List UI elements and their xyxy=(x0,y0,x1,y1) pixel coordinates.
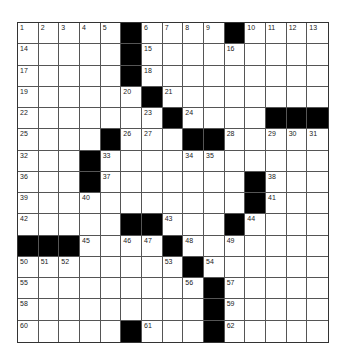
grid-cell[interactable] xyxy=(307,299,328,320)
grid-cell[interactable] xyxy=(245,236,266,257)
grid-cell[interactable] xyxy=(39,87,60,108)
grid-cell[interactable] xyxy=(80,257,101,278)
grid-cell[interactable] xyxy=(101,236,122,257)
grid-cell[interactable]: 45 xyxy=(80,236,101,257)
grid-cell[interactable] xyxy=(39,129,60,150)
grid-cell[interactable] xyxy=(266,299,287,320)
grid-cell[interactable]: 8 xyxy=(183,23,204,44)
grid-cell[interactable]: 19 xyxy=(18,87,39,108)
grid-cell[interactable] xyxy=(121,193,142,214)
grid-cell[interactable] xyxy=(266,66,287,87)
grid-cell[interactable] xyxy=(80,44,101,65)
grid-cell[interactable]: 46 xyxy=(121,236,142,257)
grid-cell[interactable] xyxy=(183,44,204,65)
grid-cell[interactable]: 10 xyxy=(245,23,266,44)
grid-cell[interactable]: 37 xyxy=(101,172,122,193)
grid-cell[interactable] xyxy=(163,193,184,214)
grid-cell[interactable] xyxy=(183,193,204,214)
grid-cell[interactable]: 11 xyxy=(266,23,287,44)
grid-cell[interactable]: 53 xyxy=(163,257,184,278)
grid-cell[interactable] xyxy=(39,214,60,235)
grid-cell[interactable] xyxy=(101,66,122,87)
grid-cell[interactable] xyxy=(287,214,308,235)
grid-cell[interactable]: 5 xyxy=(101,23,122,44)
grid-cell[interactable] xyxy=(245,44,266,65)
grid-cell[interactable] xyxy=(39,44,60,65)
grid-cell[interactable] xyxy=(287,193,308,214)
grid-cell[interactable] xyxy=(121,172,142,193)
grid-cell[interactable] xyxy=(225,87,246,108)
grid-cell[interactable] xyxy=(142,257,163,278)
grid-cell[interactable] xyxy=(204,236,225,257)
grid-cell[interactable]: 51 xyxy=(39,257,60,278)
grid-cell[interactable] xyxy=(287,66,308,87)
grid-cell[interactable] xyxy=(101,257,122,278)
grid-cell[interactable]: 25 xyxy=(18,129,39,150)
grid-cell[interactable] xyxy=(266,151,287,172)
grid-cell[interactable] xyxy=(287,236,308,257)
grid-cell[interactable]: 52 xyxy=(59,257,80,278)
grid-cell[interactable] xyxy=(307,151,328,172)
grid-cell[interactable] xyxy=(307,278,328,299)
grid-cell[interactable] xyxy=(245,87,266,108)
grid-cell[interactable] xyxy=(39,151,60,172)
grid-cell[interactable] xyxy=(121,151,142,172)
grid-cell[interactable] xyxy=(101,87,122,108)
grid-cell[interactable] xyxy=(101,108,122,129)
grid-cell[interactable] xyxy=(39,278,60,299)
grid-cell[interactable] xyxy=(101,299,122,320)
grid-cell[interactable]: 28 xyxy=(225,129,246,150)
grid-cell[interactable]: 13 xyxy=(307,23,328,44)
grid-cell[interactable] xyxy=(163,151,184,172)
grid-cell[interactable]: 41 xyxy=(266,193,287,214)
grid-cell[interactable]: 59 xyxy=(225,299,246,320)
grid-cell[interactable] xyxy=(142,172,163,193)
grid-cell[interactable] xyxy=(59,172,80,193)
grid-cell[interactable] xyxy=(307,257,328,278)
grid-cell[interactable]: 47 xyxy=(142,236,163,257)
grid-cell[interactable] xyxy=(142,193,163,214)
grid-cell[interactable]: 2 xyxy=(39,23,60,44)
grid-cell[interactable]: 54 xyxy=(204,257,225,278)
grid-cell[interactable] xyxy=(307,44,328,65)
grid-cell[interactable]: 30 xyxy=(287,129,308,150)
grid-cell[interactable]: 58 xyxy=(18,299,39,320)
grid-cell[interactable] xyxy=(266,321,287,342)
grid-cell[interactable] xyxy=(204,193,225,214)
grid-cell[interactable] xyxy=(266,257,287,278)
grid-cell[interactable] xyxy=(59,108,80,129)
grid-cell[interactable] xyxy=(80,87,101,108)
grid-cell[interactable] xyxy=(101,193,122,214)
grid-cell[interactable] xyxy=(204,87,225,108)
grid-cell[interactable]: 21 xyxy=(163,87,184,108)
grid-cell[interactable] xyxy=(101,44,122,65)
grid-cell[interactable] xyxy=(59,278,80,299)
grid-cell[interactable]: 56 xyxy=(183,278,204,299)
grid-cell[interactable]: 49 xyxy=(225,236,246,257)
grid-cell[interactable] xyxy=(163,129,184,150)
grid-cell[interactable] xyxy=(142,278,163,299)
grid-cell[interactable]: 18 xyxy=(142,66,163,87)
grid-cell[interactable]: 38 xyxy=(266,172,287,193)
grid-cell[interactable] xyxy=(59,321,80,342)
grid-cell[interactable] xyxy=(183,172,204,193)
grid-cell[interactable]: 4 xyxy=(80,23,101,44)
grid-cell[interactable] xyxy=(245,321,266,342)
grid-cell[interactable]: 24 xyxy=(183,108,204,129)
grid-cell[interactable] xyxy=(245,151,266,172)
grid-cell[interactable] xyxy=(307,193,328,214)
grid-cell[interactable] xyxy=(204,44,225,65)
grid-cell[interactable] xyxy=(80,278,101,299)
grid-cell[interactable]: 7 xyxy=(163,23,184,44)
grid-cell[interactable] xyxy=(39,299,60,320)
grid-cell[interactable]: 26 xyxy=(121,129,142,150)
grid-cell[interactable]: 55 xyxy=(18,278,39,299)
grid-cell[interactable] xyxy=(121,299,142,320)
grid-cell[interactable] xyxy=(287,321,308,342)
grid-cell[interactable] xyxy=(121,278,142,299)
grid-cell[interactable] xyxy=(163,44,184,65)
grid-cell[interactable] xyxy=(163,299,184,320)
grid-cell[interactable]: 50 xyxy=(18,257,39,278)
grid-cell[interactable] xyxy=(266,278,287,299)
grid-cell[interactable]: 29 xyxy=(266,129,287,150)
